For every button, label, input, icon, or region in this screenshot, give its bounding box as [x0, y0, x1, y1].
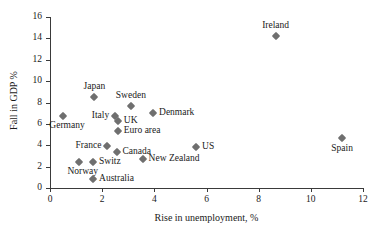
x-axis-label: Rise in unemployment, % [50, 212, 363, 223]
data-point-euro-area [114, 127, 122, 135]
x-tick-label-6: 6 [204, 195, 209, 205]
data-point-label-uk: UK [124, 116, 138, 126]
x-tick-12 [363, 188, 364, 192]
y-tick-2 [46, 167, 50, 168]
data-point-label-denmark: Denmark [159, 108, 194, 118]
y-tick-label-6: 6 [0, 119, 42, 129]
x-tick-0 [50, 188, 51, 192]
y-tick-label-16: 16 [0, 12, 42, 22]
x-tick-label-4: 4 [152, 195, 157, 205]
data-point-label-canada: Canada [123, 147, 152, 157]
y-tick-label-12: 12 [0, 55, 42, 65]
x-tick-2 [102, 188, 103, 192]
y-tick-label-14: 14 [0, 34, 42, 44]
x-tick-8 [259, 188, 260, 192]
y-axis-line [50, 17, 51, 188]
data-point-label-australia: Australia [99, 174, 134, 184]
data-point-label-france: France [76, 142, 102, 152]
data-point-japan [90, 93, 98, 101]
y-tick-10 [46, 81, 50, 82]
data-point-label-japan: Japan [84, 82, 106, 92]
data-point-label-ireland: Ireland [262, 21, 289, 31]
data-point-germany [59, 112, 67, 120]
data-point-label-euro-area: Euro area [124, 127, 161, 137]
y-tick-label-10: 10 [0, 76, 42, 86]
y-tick-8 [46, 103, 50, 104]
data-point-label-new-zealand: New Zealand [149, 154, 200, 164]
data-point-uk [114, 117, 122, 125]
y-tick-label-8: 8 [0, 98, 42, 108]
data-point-sweden [127, 101, 135, 109]
x-tick-label-10: 10 [306, 195, 316, 205]
data-point-switz [89, 158, 97, 166]
scatter-chart-figure: 024681012 0246810121416 GermanyNorwaySwi… [0, 0, 374, 237]
data-point-label-spain: Spain [331, 144, 353, 154]
y-tick-label-4: 4 [0, 141, 42, 151]
y-tick-label-2: 2 [0, 162, 42, 172]
y-tick-4 [46, 145, 50, 146]
data-point-denmark [149, 108, 157, 116]
x-tick-6 [207, 188, 208, 192]
x-tick-label-0: 0 [48, 195, 53, 205]
x-tick-label-12: 12 [358, 195, 368, 205]
data-point-spain [338, 134, 346, 142]
y-tick-label-0: 0 [0, 183, 42, 193]
x-tick-10 [311, 188, 312, 192]
x-tick-label-2: 2 [100, 195, 105, 205]
data-point-label-germany: Germany [49, 121, 84, 131]
data-point-us [192, 143, 200, 151]
y-tick-0 [46, 188, 50, 189]
data-point-canada [112, 147, 120, 155]
data-point-ireland [271, 32, 279, 40]
plot-area: 024681012 0246810121416 GermanyNorwaySwi… [0, 0, 374, 237]
y-tick-16 [46, 17, 50, 18]
y-tick-14 [46, 38, 50, 39]
data-point-france [103, 142, 111, 150]
data-point-norway [74, 158, 82, 166]
x-tick-label-8: 8 [256, 195, 261, 205]
data-point-label-italy: Italy [92, 111, 109, 121]
data-point-label-sweden: Sweden [116, 90, 146, 100]
data-point-label-switz: Switz [99, 157, 121, 167]
data-point-label-us: US [202, 142, 214, 152]
y-tick-12 [46, 60, 50, 61]
x-tick-4 [154, 188, 155, 192]
y-axis-label: Fall in GDP % [8, 51, 19, 151]
